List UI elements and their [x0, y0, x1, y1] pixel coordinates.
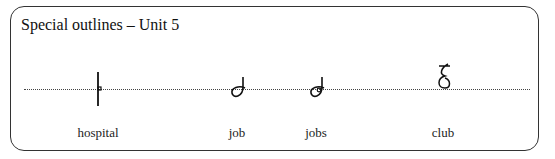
hospital-outline-icon: [88, 70, 108, 110]
job-label: job: [229, 125, 246, 141]
club-outline-icon: [433, 62, 457, 92]
jobs-outline-icon: [306, 75, 330, 103]
hospital-label: hospital: [77, 125, 118, 141]
job-outline-icon: [227, 75, 251, 103]
jobs-label: jobs: [305, 125, 327, 141]
section-title: Special outlines – Unit 5: [21, 16, 179, 34]
club-label: club: [432, 125, 454, 141]
